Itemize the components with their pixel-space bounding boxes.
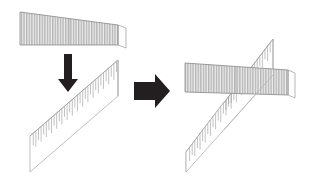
- fringed-panel-body: [30, 60, 118, 172]
- striped-panel-end-face: [118, 25, 126, 48]
- assembly-diagram-figure: Assembly diagram: striped panel lowered …: [0, 0, 311, 182]
- right-arrow: [134, 74, 170, 108]
- down-arrow-shape: [58, 54, 78, 92]
- striped-panel-texture: [18, 10, 122, 50]
- result-striped-end-face: [288, 70, 295, 98]
- diagram-canvas: [0, 0, 311, 182]
- striped-panel-source: [18, 10, 126, 50]
- fringed-panel-target: [30, 60, 118, 172]
- down-arrow: [58, 54, 78, 92]
- right-arrow-shape: [134, 74, 170, 108]
- assembled-panels-result: [183, 39, 295, 172]
